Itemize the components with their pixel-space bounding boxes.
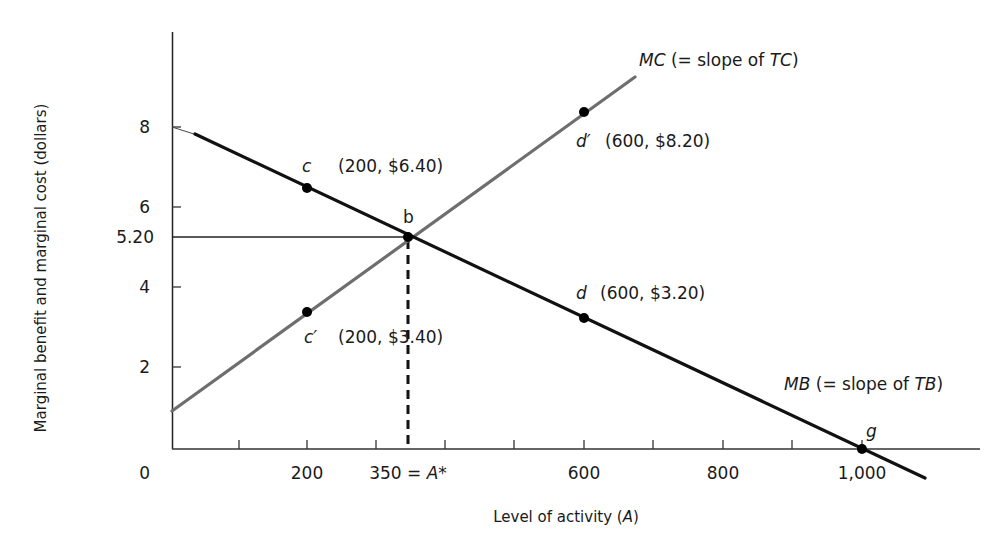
point-d-prime (579, 107, 589, 117)
point-c-prime (302, 307, 312, 317)
y-tick-label-2: 2 (139, 357, 150, 377)
point-b (403, 232, 413, 242)
mc-curve-label: MC (= slope of TC) (639, 50, 799, 70)
x-axis-title: Level of activity (A) (493, 508, 639, 526)
label-d-prime-coords: (600, $8.20) (605, 131, 710, 151)
y-tick-label-4: 4 (139, 277, 150, 297)
mc-curve (172, 77, 635, 411)
y-axis-title: Marginal benefit and marginal cost (doll… (32, 104, 50, 433)
y-tick-label-5-20: 5.20 (116, 227, 154, 247)
point-g (857, 444, 867, 454)
label-d-prime: d′ (576, 131, 591, 151)
x-tick-label-200: 200 (291, 463, 323, 483)
mb-curve-label: MB (= slope of TB) (784, 374, 943, 394)
x-tick-label-350-astar: 350 = A* (369, 463, 447, 483)
x-tick-label-600: 600 (568, 463, 600, 483)
label-c-coords: (200, $6.40) (338, 156, 443, 176)
label-b: b (403, 207, 414, 227)
point-d (579, 313, 589, 323)
y-tick-label-6: 6 (139, 197, 150, 217)
y-ticks (172, 127, 181, 367)
x-tick-label-800: 800 (707, 463, 739, 483)
x-ticks (239, 440, 862, 449)
chart-svg: Marginal benefit and marginal cost (doll… (0, 0, 1008, 538)
point-c (302, 183, 312, 193)
label-g: g (866, 421, 877, 441)
label-d-coords: (600, $3.20) (600, 283, 705, 303)
origin-label: 0 (139, 463, 150, 483)
label-d: d (576, 283, 587, 303)
mb-curve-thin-start (172, 127, 197, 135)
label-c: c (302, 156, 312, 176)
marginal-analysis-chart: Marginal benefit and marginal cost (doll… (0, 0, 1008, 538)
y-tick-label-8: 8 (139, 117, 150, 137)
label-c-prime-coords: (200, $3.40) (338, 327, 443, 347)
label-c-prime: c′ (304, 327, 317, 347)
x-tick-label-1000: 1,000 (838, 463, 887, 483)
